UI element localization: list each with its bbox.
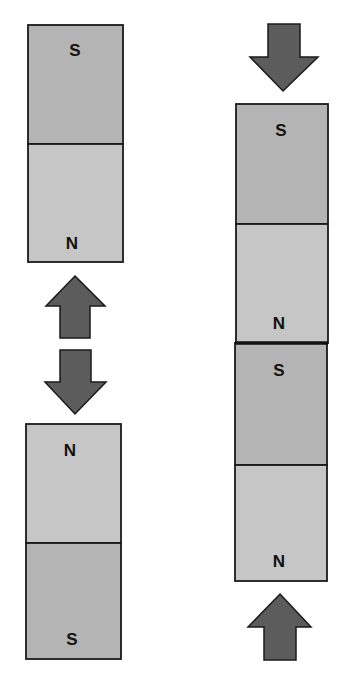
right-top-magnet-bottom-pole-label: N xyxy=(273,314,285,333)
left-bottom-magnet-top-pole-label: N xyxy=(64,441,76,460)
right-down-arrow-icon xyxy=(250,24,318,91)
left-top-magnet-bottom-pole-label: N xyxy=(66,234,78,253)
left-bottom-magnet-bottom-pole-label: S xyxy=(66,630,77,649)
right-up-arrow-icon xyxy=(248,594,311,660)
right-bottom-magnet: S N xyxy=(235,343,327,581)
right-bottom-magnet-bottom-pole-label: N xyxy=(273,552,285,571)
left-top-magnet: S N xyxy=(28,25,123,262)
left-down-arrow-icon xyxy=(45,350,106,414)
magnet-diagram: S N N S S N S N xyxy=(0,0,345,693)
right-top-magnet: S N xyxy=(236,104,328,343)
right-top-magnet-top-pole-label: S xyxy=(275,121,286,140)
right-bottom-magnet-top-pole-label: S xyxy=(273,361,284,380)
left-up-arrow-icon xyxy=(46,276,105,338)
left-bottom-magnet: N S xyxy=(26,424,121,659)
left-top-magnet-top-pole-label: S xyxy=(69,41,80,60)
